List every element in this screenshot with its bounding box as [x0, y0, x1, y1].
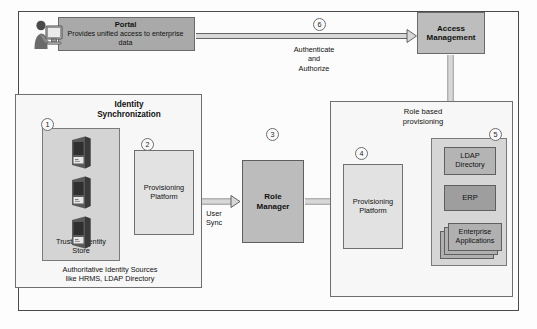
server-tower-icon	[68, 175, 94, 211]
provisioning-platform-box-1[interactable]: Provisioning Platform	[134, 150, 194, 235]
authenticate-label: Authenticate	[276, 45, 352, 54]
apps-line2: Applications	[456, 237, 495, 246]
provisioning1-line2: Platform	[150, 193, 178, 202]
authenticate-authorize-label: Authenticate and Authorize	[276, 45, 352, 73]
idsync-title-line1: Identity	[64, 100, 194, 110]
rbp-title-line2: provisioning	[363, 117, 483, 127]
user-sync-label: User Sync	[197, 209, 231, 228]
role-manager-line2: Manager	[257, 202, 290, 211]
step-number-1: 1	[41, 118, 54, 131]
portal-title: Portal	[115, 21, 137, 30]
step-number-3: 3	[266, 128, 279, 141]
role-manager-box[interactable]: Role Manager	[242, 160, 304, 243]
server-icon-group	[43, 135, 119, 251]
step-number-6: 6	[313, 18, 326, 31]
identity-synchronization-title: Identity Synchronization	[64, 100, 194, 121]
diagram-canvas: Portal Provides unified access to enterp…	[0, 0, 537, 329]
ldap-directory-box[interactable]: LDAP Directory	[444, 147, 496, 175]
server-tower-icon	[68, 215, 94, 251]
trusted-identity-store-box[interactable]: Trusted Identity Store	[42, 128, 120, 261]
access-management-line2: Management	[427, 33, 476, 42]
step-number-5: 5	[489, 128, 502, 141]
user-sync-line2: Sync	[197, 218, 231, 227]
enterprise-applications-stack[interactable]: Enterprise Applications	[440, 223, 502, 259]
authoritative-sources-caption: Authoritative Identity Sources like HRMS…	[22, 265, 198, 284]
access-management-line1: Access	[437, 24, 465, 33]
idsync-title-line2: Synchronization	[64, 110, 194, 120]
erp-label: ERP	[462, 194, 478, 203]
provisioning2-line2: Platform	[359, 207, 387, 216]
caption-line1: Authoritative Identity Sources	[22, 265, 198, 274]
step-number-4: 4	[355, 147, 368, 160]
authorize-label: Authorize	[276, 64, 352, 73]
access-management-box[interactable]: Access Management	[417, 12, 485, 54]
provisioning-platform-box-2[interactable]: Provisioning Platform	[343, 164, 403, 249]
and-label: and	[276, 54, 352, 63]
role-based-provisioning-title: Role based provisioning	[363, 107, 483, 127]
role-manager-line1: Role	[264, 192, 281, 201]
caption-line2: like HRMS, LDAP Directory	[22, 274, 198, 283]
user-sync-line1: User	[197, 209, 231, 218]
portal-description: Provides unified access to enterprise da…	[61, 30, 190, 47]
erp-box[interactable]: ERP	[444, 185, 496, 211]
user-at-computer-icon	[30, 18, 63, 51]
rbp-title-line1: Role based	[363, 107, 483, 117]
target-systems-group: LDAP Directory ERP Enterprise Applicatio…	[431, 138, 507, 266]
step-number-2: 2	[141, 138, 154, 151]
enterprise-applications-box[interactable]: Enterprise Applications	[448, 223, 502, 251]
portal-box[interactable]: Portal Provides unified access to enterp…	[58, 17, 195, 51]
role-based-provisioning-panel: Role based provisioning Provisioning Pla…	[330, 101, 513, 297]
ldap-line2: Directory	[455, 161, 485, 170]
server-tower-icon	[68, 135, 94, 171]
